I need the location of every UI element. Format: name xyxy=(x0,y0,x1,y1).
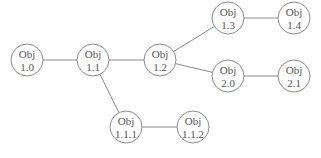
node-obj-1-2: Obj1.2 xyxy=(144,44,176,76)
node-obj-2-0: Obj2.0 xyxy=(212,60,244,92)
edge-1-2-to-1-3 xyxy=(174,26,215,51)
node-label-line1: Obj xyxy=(286,6,303,18)
object-tree-diagram: Obj1.0Obj1.1Obj1.2Obj1.3Obj1.4Obj2.0Obj2… xyxy=(0,0,321,158)
edge-1-1-to-1-1-1 xyxy=(100,74,119,112)
node-obj-1-0: Obj1.0 xyxy=(11,44,43,76)
node-label-line2: 2.0 xyxy=(221,77,235,89)
node-label-line1: Obj xyxy=(220,6,237,18)
edge-1-2-to-2-0 xyxy=(176,64,213,73)
node-obj-1-1-2: Obj1.1.2 xyxy=(177,111,209,143)
node-label-line1: Obj xyxy=(118,115,135,127)
node-label-line2: 1.1.2 xyxy=(182,128,204,140)
node-label-line1: Obj xyxy=(152,48,169,60)
node-label-line2: 1.1.1 xyxy=(115,128,137,140)
node-label-line2: 1.2 xyxy=(153,61,167,73)
node-label-line2: 2.1 xyxy=(287,77,301,89)
node-obj-1-1-1: Obj1.1.1 xyxy=(110,111,142,143)
node-obj-1-1: Obj1.1 xyxy=(77,44,109,76)
node-label-line2: 1.3 xyxy=(221,19,235,31)
node-label-line2: 1.1 xyxy=(86,61,100,73)
node-label-line1: Obj xyxy=(85,48,102,60)
node-obj-1-3: Obj1.3 xyxy=(212,2,244,34)
node-obj-2-1: Obj2.1 xyxy=(278,60,310,92)
node-label-line2: 1.0 xyxy=(20,61,34,73)
node-label-line2: 1.4 xyxy=(287,19,301,31)
node-label-line1: Obj xyxy=(286,64,303,76)
node-label-line1: Obj xyxy=(185,115,202,127)
node-label-line1: Obj xyxy=(220,64,237,76)
nodes-layer: Obj1.0Obj1.1Obj1.2Obj1.3Obj1.4Obj2.0Obj2… xyxy=(11,2,310,143)
node-obj-1-4: Obj1.4 xyxy=(278,2,310,34)
node-label-line1: Obj xyxy=(19,48,36,60)
